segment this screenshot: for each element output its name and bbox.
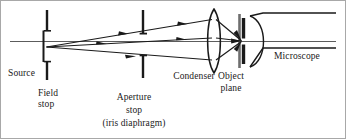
label-aperture-stop-line2: stop [126, 105, 142, 116]
label-aperture-stop-line1: Aperture [117, 92, 152, 103]
aperture-stop-element [140, 10, 147, 78]
label-field-stop-line2: stop [38, 99, 54, 110]
label-aperture-stop-line3: (iris diaphragm) [102, 118, 165, 129]
label-object-plane-line2: plane [220, 83, 241, 94]
diagram-canvas [0, 0, 346, 139]
label-condenser: Condenser [173, 71, 215, 82]
label-source: Source [8, 68, 35, 79]
figure-border [1, 1, 346, 139]
label-object-plane-line1: Object [218, 71, 244, 82]
condenser-lens [208, 9, 221, 73]
label-field-stop-line1: Field [38, 88, 58, 99]
optical-diagram-figure: Source Field stop Aperture stop (iris di… [0, 0, 346, 139]
ray-lower [47, 47, 213, 60]
field-stop-element [44, 10, 52, 80]
label-microscope: Microscope [274, 51, 320, 62]
